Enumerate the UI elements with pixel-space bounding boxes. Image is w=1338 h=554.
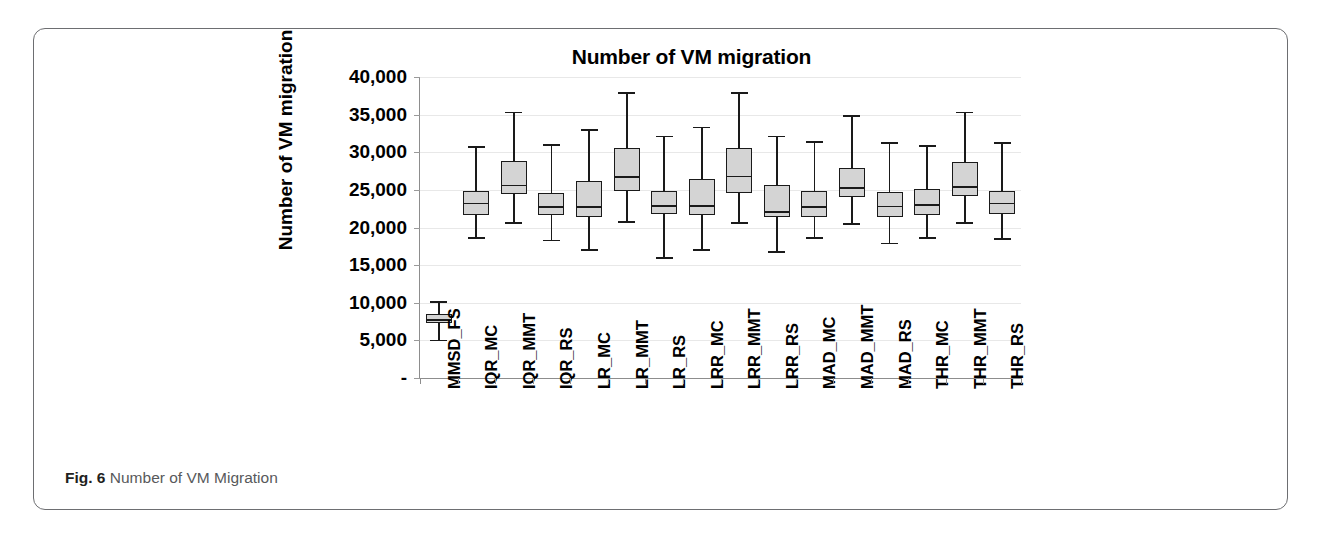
whisker-lower xyxy=(588,217,590,249)
x-tick-label: IQR_RS xyxy=(557,328,576,389)
cap-upper xyxy=(543,144,560,146)
figure-caption: Fig. 6 Number of VM Migration xyxy=(65,469,278,487)
x-tick-mark xyxy=(946,378,947,384)
cap-lower xyxy=(468,237,485,239)
x-tick-mark xyxy=(721,378,722,384)
cap-lower xyxy=(956,222,973,224)
median-line xyxy=(463,203,489,205)
whisker-lower xyxy=(701,215,703,249)
box-iqr-rect xyxy=(576,181,602,217)
median-line xyxy=(614,176,640,178)
whisker-lower xyxy=(738,193,740,222)
x-tick-mark xyxy=(458,378,459,384)
whisker-upper xyxy=(851,115,853,168)
whisker-lower xyxy=(663,214,665,257)
median-line xyxy=(989,203,1015,205)
whisker-lower xyxy=(1001,214,1003,238)
median-line xyxy=(726,176,752,178)
x-tick-label: MMSD_FS xyxy=(445,308,464,389)
box-iqr-rect xyxy=(801,191,827,217)
median-line xyxy=(952,186,978,188)
cap-upper xyxy=(693,127,710,129)
x-tick-label: LRR_MMT xyxy=(745,308,764,389)
cap-upper xyxy=(430,301,447,303)
box-iqr-rect xyxy=(538,193,564,216)
whisker-lower xyxy=(851,197,853,223)
whisker-lower xyxy=(776,217,778,251)
cap-upper xyxy=(994,142,1011,144)
x-tick-label: MAD_MMT xyxy=(858,305,877,389)
x-tick-mark xyxy=(608,378,609,384)
caption-label: Fig. 6 xyxy=(65,469,105,486)
cap-lower xyxy=(881,243,898,245)
median-line xyxy=(538,206,564,208)
y-tick-label: 25,000 xyxy=(277,179,407,201)
whisker-upper xyxy=(626,92,628,148)
cap-lower xyxy=(806,237,823,239)
x-tick-mark xyxy=(533,378,534,384)
figure-frame: Number of VM migration Number of VM migr… xyxy=(33,28,1288,510)
whisker-upper xyxy=(814,141,816,191)
x-tick-label: IQR_MMT xyxy=(520,313,539,389)
box-iqr-rect xyxy=(839,168,865,197)
whisker-upper xyxy=(889,142,891,192)
cap-lower xyxy=(581,249,598,251)
median-line xyxy=(839,187,865,189)
y-tick-label: 15,000 xyxy=(277,254,407,276)
plot-area: -5,00010,00015,00020,00025,00030,00035,0… xyxy=(420,77,1021,378)
median-line xyxy=(651,205,677,207)
y-tick-label: 40,000 xyxy=(277,66,407,88)
whisker-upper xyxy=(475,146,477,191)
cap-upper xyxy=(768,136,785,138)
whisker-upper xyxy=(551,144,553,193)
whisker-upper xyxy=(964,112,966,162)
x-tick-label: LR_MC xyxy=(595,332,614,389)
cap-lower xyxy=(919,237,936,239)
box-iqr-rect xyxy=(877,192,903,217)
box-iqr-rect xyxy=(726,148,752,192)
x-tick-mark xyxy=(796,378,797,384)
whisker-upper xyxy=(1001,142,1003,191)
whisker-lower xyxy=(551,215,553,239)
x-tick-label: LR_RS xyxy=(670,335,689,389)
cap-upper xyxy=(919,145,936,147)
box-iqr-rect xyxy=(501,161,527,194)
cap-upper xyxy=(956,112,973,114)
median-line xyxy=(576,206,602,208)
cap-upper xyxy=(468,146,485,148)
x-tick-label: MAD_MC xyxy=(820,317,839,389)
cap-lower xyxy=(843,223,860,225)
cap-lower xyxy=(618,221,635,223)
whisker-lower xyxy=(626,191,628,221)
median-line xyxy=(914,204,940,206)
x-tick-mark xyxy=(983,378,984,384)
box-iqr-rect xyxy=(614,148,640,192)
x-tick-label: THR_MMT xyxy=(971,308,990,389)
whisker-lower xyxy=(926,215,928,238)
x-tick-label: MAD_RS xyxy=(896,319,915,389)
x-tick-label: THR_MC xyxy=(933,320,952,389)
y-tick-label: - xyxy=(277,367,407,389)
x-tick-mark xyxy=(1021,378,1022,384)
y-tick-label: 30,000 xyxy=(277,141,407,163)
cap-upper xyxy=(656,136,673,138)
whisker-upper xyxy=(663,136,665,191)
cap-lower xyxy=(693,249,710,251)
x-tick-label: LRR_RS xyxy=(783,323,802,389)
cap-lower xyxy=(505,222,522,224)
whisker-upper xyxy=(513,112,515,162)
cap-lower xyxy=(543,240,560,242)
chart-area: Number of VM migration Number of VM migr… xyxy=(34,29,1289,459)
whisker-upper xyxy=(926,145,928,189)
x-tick-mark xyxy=(495,378,496,384)
x-tick-mark xyxy=(570,378,571,384)
box-iqr-rect xyxy=(689,179,715,215)
whisker-lower xyxy=(814,217,816,237)
caption-text: Number of VM Migration xyxy=(110,469,278,486)
whisker-upper xyxy=(438,301,440,314)
box-iqr-rect xyxy=(914,189,940,215)
whisker-upper xyxy=(776,136,778,185)
cap-lower xyxy=(731,222,748,224)
y-tick-label: 20,000 xyxy=(277,217,407,239)
cap-lower xyxy=(656,257,673,259)
